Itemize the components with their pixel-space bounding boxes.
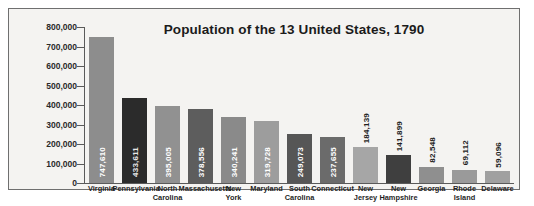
category-label-line: Hampshire: [377, 194, 421, 203]
bar-value-label: 237,655: [328, 147, 337, 177]
bar-group: 319,728: [250, 27, 283, 183]
category-label-line: Carolina: [278, 194, 322, 203]
bar[interactable]: [452, 170, 477, 183]
bar[interactable]: [419, 167, 444, 183]
bar-series: 747,610433,611395,005378,556340,241319,7…: [85, 27, 514, 183]
chart-frame: Population of the 13 United States, 1790…: [8, 8, 520, 190]
y-axis-tick-label: 200,000: [25, 139, 77, 149]
y-axis-tick-label: 0: [25, 178, 77, 188]
bar-value-label: 59,096: [493, 142, 502, 168]
y-axis-tick-mark: [77, 164, 84, 165]
y-axis-tick-mark: [77, 105, 84, 106]
y-axis-tick-label: 300,000: [25, 120, 77, 130]
bar-value-label: 249,073: [295, 147, 304, 177]
bar-group: 69,112: [448, 27, 481, 183]
bar-group: 747,610: [85, 27, 118, 183]
y-axis-tick-mark: [77, 144, 84, 145]
y-axis-tick-label: 100,000: [25, 159, 77, 169]
bar-group: 184,139: [349, 27, 382, 183]
bar-value-label: 319,728: [262, 147, 271, 177]
bar-value-label: 141,899: [394, 121, 403, 151]
bar-group: 378,556: [184, 27, 217, 183]
bar-value-label: 378,556: [196, 147, 205, 177]
y-axis-tick-mark: [77, 125, 84, 126]
category-label-line: Carolina: [146, 194, 190, 203]
y-axis-labels: 0100,000200,000300,000400,000500,000600,…: [23, 9, 77, 189]
bar-value-label: 340,241: [229, 147, 238, 177]
category-label-line: Island: [443, 194, 487, 203]
y-axis-tick-mark: [77, 66, 84, 67]
bar-value-label: 747,610: [97, 147, 106, 177]
x-axis-category-labels: VirginiaPennsylvaniaNorthCarolinaMassach…: [85, 185, 514, 206]
bar-value-label: 82,548: [427, 137, 436, 163]
bar-group: 141,899: [382, 27, 415, 183]
y-axis-tick-mark: [77, 47, 84, 48]
bar-value-label: 395,005: [163, 147, 172, 177]
bar-value-label: 433,611: [130, 147, 139, 177]
y-axis-tick-label: 800,000: [25, 22, 77, 32]
y-axis-tick-mark: [77, 86, 84, 87]
x-axis-category-label: Delaware: [476, 185, 520, 194]
bar-value-label: 69,112: [460, 140, 469, 165]
bar[interactable]: [386, 155, 411, 183]
bar-value-label: 184,139: [361, 113, 370, 143]
y-axis-tick-label: 400,000: [25, 100, 77, 110]
bar-group: 82,548: [415, 27, 448, 183]
bar-group: 237,655: [316, 27, 349, 183]
category-label-line: York: [212, 194, 256, 203]
bar-group: 340,241: [217, 27, 250, 183]
y-axis-tick-label: 700,000: [25, 42, 77, 52]
category-label-line: Delaware: [476, 185, 520, 194]
bar-group: 59,096: [481, 27, 514, 183]
bar-group: 395,005: [151, 27, 184, 183]
bar[interactable]: [353, 147, 378, 183]
chart-plot-area: Population of the 13 United States, 1790…: [9, 9, 519, 189]
bar-group: 433,611: [118, 27, 151, 183]
y-axis-tick-mark: [77, 27, 84, 28]
y-axis-tick-label: 600,000: [25, 61, 77, 71]
y-axis-tick-mark: [77, 183, 84, 184]
y-axis-tick-label: 500,000: [25, 81, 77, 91]
bar[interactable]: [485, 171, 510, 183]
bar-group: 249,073: [283, 27, 316, 183]
